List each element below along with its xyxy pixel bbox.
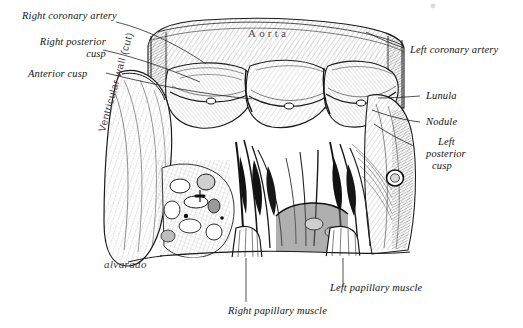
- label-left-papillary-muscle: Left papillary muscle: [330, 282, 422, 294]
- label-right-posterior-cusp-line1: Right posterior: [0, 36, 106, 48]
- aortic-valve-cusps: [166, 60, 399, 128]
- label-nodule: Nodule: [426, 116, 457, 128]
- page-speck: [431, 4, 436, 9]
- artist-signature: alvarado: [104, 258, 147, 270]
- trabeculae-carneae: [158, 160, 234, 258]
- label-left-coronary-artery: Left coronary artery: [410, 44, 498, 56]
- label-left-posterior-cusp-line3: cusp: [432, 160, 452, 172]
- label-anterior-cusp: Anterior cusp: [28, 68, 87, 80]
- label-lunula: Lunula: [426, 90, 457, 102]
- label-left-posterior-cusp-line2: posterior: [426, 148, 466, 160]
- label-right-posterior-cusp-line2: cusp: [0, 48, 106, 60]
- label-right-coronary-artery: Right coronary artery: [22, 10, 117, 22]
- aorta-inscription: Aorta: [248, 27, 289, 39]
- coronary-ostium: [387, 170, 404, 186]
- label-left-posterior-cusp-line1: Left: [438, 136, 455, 148]
- label-right-papillary-muscle: Right papillary muscle: [228, 305, 327, 317]
